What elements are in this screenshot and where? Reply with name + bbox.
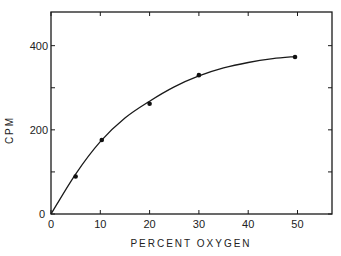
y-tick-label: 400 [30,40,48,52]
x-tick-label: 20 [143,218,155,230]
plot-border [51,12,332,214]
plot-frame [51,12,332,214]
data-point [147,101,152,106]
chart: 010203040500200400 PERCENT OXYGEN CPM [0,0,341,256]
fitted-curve [51,57,295,214]
x-tick-label: 10 [94,218,106,230]
data-point [73,174,78,179]
data-point [197,73,202,78]
axis-ticks: 010203040500200400 [30,12,332,230]
y-tick-label: 0 [39,208,45,220]
x-tick-label: 30 [193,218,205,230]
x-tick-label: 40 [242,218,254,230]
x-tick-label: 50 [291,218,303,230]
data-point [99,138,104,143]
y-axis-label: CPM [4,116,15,144]
data-point [293,55,298,60]
data-points [73,55,297,179]
x-tick-label: 0 [48,218,54,230]
x-axis-label: PERCENT OXYGEN [130,238,251,249]
y-tick-label: 200 [30,124,48,136]
